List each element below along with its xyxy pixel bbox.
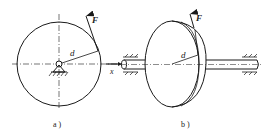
- pin-support-icon: [49, 61, 68, 76]
- radius-label: d: [70, 48, 75, 58]
- caption-a: a ): [53, 120, 62, 129]
- panel-b: d F b ): [120, 13, 262, 129]
- figure-canvas: d F x a ): [0, 0, 270, 133]
- caption-b: b ): [181, 120, 190, 129]
- x-axis-label: x: [109, 67, 114, 76]
- force-label: F: [91, 15, 98, 25]
- force-label-b: F: [195, 13, 202, 23]
- radius-label-b: d: [181, 50, 186, 60]
- radius-line: [59, 51, 98, 64]
- panel-a: d F x a ): [12, 14, 122, 129]
